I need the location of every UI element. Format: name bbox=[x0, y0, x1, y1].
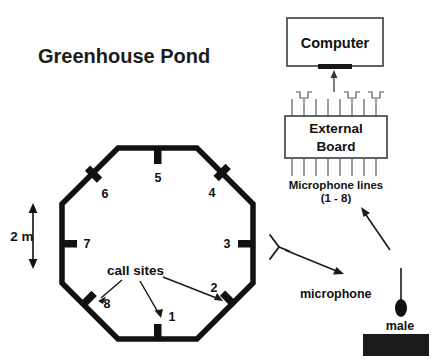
male-frog-symbol-icon bbox=[395, 268, 407, 317]
computer-label: Computer bbox=[301, 35, 370, 51]
external-board-label-line2: Board bbox=[316, 139, 355, 154]
microphone-marker-label: 3 bbox=[224, 237, 231, 251]
microphone-marker-icon bbox=[61, 240, 77, 248]
microphone-marker-label: 7 bbox=[84, 237, 91, 251]
scale-bar: 2 m bbox=[10, 203, 37, 269]
pond-microphone-7: 7 bbox=[61, 237, 91, 251]
call-sites-label: call sites bbox=[107, 263, 164, 278]
external-board-unit: External Board bbox=[285, 116, 387, 158]
page-title: Greenhouse Pond bbox=[38, 45, 210, 67]
microphone-lines-below-board bbox=[292, 158, 376, 176]
signal-lines-above-board bbox=[292, 99, 376, 116]
microphone-marker-label: 2 bbox=[211, 281, 218, 295]
microphone-lines-range-label: (1 - 8) bbox=[321, 192, 352, 204]
pond-microphone-1: 1 bbox=[154, 310, 176, 340]
microphone-symbol-icon bbox=[270, 235, 289, 259]
call-sites-arrowheads bbox=[98, 293, 223, 318]
microphone-marker-icon bbox=[238, 240, 254, 248]
male-to-lines-arrow-icon bbox=[361, 207, 390, 250]
scale-label: 2 m bbox=[10, 229, 33, 244]
pond-microphone-5: 5 bbox=[154, 148, 162, 185]
microphone-marker-label: 1 bbox=[169, 310, 176, 324]
greenhouse-pond-figure: Greenhouse Pond Computer bbox=[0, 0, 434, 360]
microphone-marker-label: 6 bbox=[102, 187, 109, 201]
microphone-lines-label: Microphone lines bbox=[289, 179, 384, 191]
pulse-waveform-icon bbox=[296, 92, 384, 98]
scale-arrow-up-icon bbox=[29, 203, 38, 213]
microphone-label: microphone bbox=[300, 287, 372, 301]
pond-microphone-2: 2 bbox=[211, 281, 238, 308]
pond-microphone-3: 3 bbox=[224, 237, 254, 251]
board-to-computer-arrow-icon bbox=[331, 70, 338, 92]
computer-unit: Computer bbox=[287, 18, 383, 69]
microphone-pointer-arrow-icon bbox=[285, 250, 344, 275]
microphone-marker-label: 4 bbox=[209, 186, 216, 200]
scale-arrow-down-icon bbox=[29, 259, 38, 269]
external-board-label-line1: External bbox=[309, 121, 362, 136]
computer-port-icon bbox=[318, 64, 352, 69]
male-label: male bbox=[386, 319, 415, 333]
call-sites-arrows bbox=[101, 277, 219, 314]
microphone-marker-icon bbox=[154, 148, 162, 164]
redacted-block bbox=[363, 334, 429, 356]
microphone-marker-icon bbox=[154, 324, 162, 340]
microphone-marker-label: 5 bbox=[155, 171, 162, 185]
